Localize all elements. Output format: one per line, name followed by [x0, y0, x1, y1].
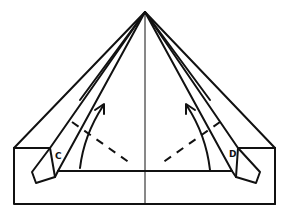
right-fold-line: [162, 122, 220, 163]
left-fold-arrow-icon: [80, 104, 104, 168]
label-c: C: [55, 151, 62, 161]
right-fold-arrow-icon: [186, 104, 210, 170]
left-flap-lines: [14, 12, 145, 183]
origami-diagram: C D: [0, 0, 282, 213]
right-flap-lines: [145, 12, 275, 183]
label-d: D: [229, 149, 236, 159]
